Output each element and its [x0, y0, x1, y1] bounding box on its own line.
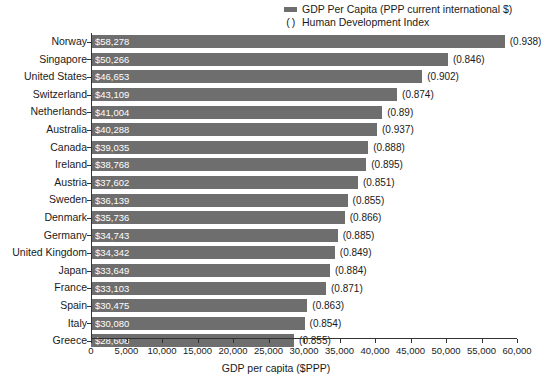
- bar-value-label: $39,035: [95, 141, 129, 154]
- bar-container: $30,080: [91, 317, 305, 330]
- hdi-value-label: (0.863): [312, 299, 344, 312]
- bar-container: $40,288: [91, 123, 377, 136]
- x-axis-tick: [411, 339, 412, 343]
- category-label: Japan: [58, 262, 87, 280]
- category-label: Australia: [46, 121, 87, 139]
- x-axis-tick-label: 25,000: [254, 345, 283, 356]
- bar-row: Italy$30,080(0.854): [0, 315, 552, 333]
- bar: [91, 70, 422, 83]
- bar-row: Singapore$50,266(0.846): [0, 51, 552, 69]
- x-axis-tick: [91, 339, 92, 343]
- x-axis-tick-label: 45,000: [396, 345, 425, 356]
- bar: [91, 35, 505, 48]
- bar-row: Sweden$36,139(0.855): [0, 191, 552, 209]
- bar-row: Germany$34,743(0.885): [0, 227, 552, 245]
- bar-container: $41,004: [91, 106, 382, 119]
- category-label: Singapore: [39, 51, 87, 69]
- x-axis-tick-label: 50,000: [431, 345, 460, 356]
- hdi-value-label: (0.884): [335, 264, 367, 277]
- category-label: Denmark: [44, 209, 87, 227]
- bar-value-label: $33,649: [95, 264, 129, 277]
- x-axis-tick: [269, 339, 270, 343]
- bar: [91, 194, 348, 207]
- bar-value-label: $43,109: [95, 88, 129, 101]
- x-axis-tick: [446, 339, 447, 343]
- bar-row: Canada$39,035(0.888): [0, 139, 552, 157]
- category-label: France: [54, 279, 87, 297]
- bar-value-label: $35,736: [95, 211, 129, 224]
- x-axis-tick-label: 5,000: [115, 345, 139, 356]
- bar-value-label: $36,139: [95, 194, 129, 207]
- category-label: Netherlands: [30, 103, 87, 121]
- bar-value-label: $50,266: [95, 53, 129, 66]
- hdi-value-label: (0.885): [343, 229, 375, 242]
- bar-container: $58,278: [91, 35, 505, 48]
- bar-value-label: $30,475: [95, 299, 129, 312]
- bar-value-label: $34,342: [95, 246, 129, 259]
- hdi-value-label: (0.854): [310, 317, 342, 330]
- bar-container: $50,266: [91, 53, 448, 66]
- bar-value-label: $46,653: [95, 70, 129, 83]
- category-label: Austria: [54, 174, 87, 192]
- bar-container: $35,736: [91, 211, 345, 224]
- bar-container: $46,653: [91, 70, 422, 83]
- bar-row: Austria$37,602(0.851): [0, 174, 552, 192]
- bar-row: Norway$58,278(0.938): [0, 33, 552, 51]
- bar: [91, 123, 377, 136]
- hdi-value-label: (0.855): [353, 194, 385, 207]
- category-label: United States: [24, 68, 87, 86]
- bar-row: United Kingdom$34,342(0.849): [0, 244, 552, 262]
- x-axis-title: GDP per capita ($PPP): [0, 362, 552, 374]
- category-label: Spain: [60, 297, 87, 315]
- hdi-value-label: (0.874): [402, 88, 434, 101]
- x-axis-tick: [517, 339, 518, 343]
- plot-area: Norway$58,278(0.938)Singapore$50,266(0.8…: [0, 0, 552, 390]
- bar-value-label: $38,768: [95, 158, 129, 171]
- bar-container: $34,342: [91, 246, 335, 259]
- bar-row: Spain$30,475(0.863): [0, 297, 552, 315]
- x-axis-tick: [127, 339, 128, 343]
- bar-container: $33,649: [91, 264, 330, 277]
- x-axis-tick: [375, 339, 376, 343]
- bar-row: Denmark$35,736(0.866): [0, 209, 552, 227]
- x-axis-tick-label: 10,000: [147, 345, 176, 356]
- category-label: Ireland: [55, 156, 87, 174]
- hdi-value-label: (0.938): [510, 35, 542, 48]
- bar-row: Netherlands$41,004(0.89): [0, 103, 552, 121]
- category-label: Italy: [68, 315, 87, 333]
- bar-row: Australia$40,288(0.937): [0, 121, 552, 139]
- category-label: United Kingdom: [12, 244, 87, 262]
- hdi-value-label: (0.888): [373, 141, 405, 154]
- hdi-value-label: (0.937): [382, 123, 414, 136]
- category-label: Switzerland: [33, 86, 87, 104]
- bar-value-label: $33,103: [95, 282, 129, 295]
- bar-chart: GDP Per Capita (PPP current internationa…: [0, 0, 552, 390]
- x-axis-tick-label: 20,000: [218, 345, 247, 356]
- hdi-value-label: (0.866): [350, 211, 382, 224]
- bar: [91, 176, 358, 189]
- bar-container: $33,103: [91, 282, 326, 295]
- y-axis-line: [91, 33, 92, 338]
- hdi-value-label: (0.895): [371, 158, 403, 171]
- bar-container: $38,768: [91, 158, 366, 171]
- category-label: Norway: [51, 33, 87, 51]
- bar-value-label: $37,602: [95, 176, 129, 189]
- x-axis-tick: [233, 339, 234, 343]
- bar-container: $39,035: [91, 141, 368, 154]
- bar-row: Switzerland$43,109(0.874): [0, 86, 552, 104]
- bar-value-label: $30,080: [95, 317, 129, 330]
- x-axis-tick: [340, 339, 341, 343]
- bar-container: $37,602: [91, 176, 358, 189]
- bar-container: $36,139: [91, 194, 348, 207]
- hdi-value-label: (0.851): [363, 176, 395, 189]
- x-axis-tick-label: 0: [88, 345, 93, 356]
- x-axis-tick: [304, 339, 305, 343]
- hdi-value-label: (0.846): [453, 53, 485, 66]
- x-axis-tick-label: 30,000: [289, 345, 318, 356]
- hdi-value-label: (0.902): [427, 70, 459, 83]
- category-label: Germany: [44, 227, 87, 245]
- bar-row: Japan$33,649(0.884): [0, 262, 552, 280]
- bar: [91, 53, 448, 66]
- bar-row: United States$46,653(0.902): [0, 68, 552, 86]
- bar-container: $34,743: [91, 229, 338, 242]
